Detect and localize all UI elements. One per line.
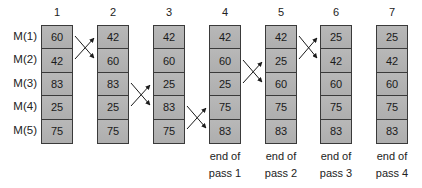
swap-arrow-x-icon (131, 83, 150, 106)
swap-arrow-x-icon (75, 36, 94, 59)
swap-arrow-x-icon (299, 36, 317, 59)
swap-arrow-x-icon (187, 106, 206, 129)
swap-arrows (0, 0, 422, 188)
bubble-sort-diagram: M(1) M(2) M(3) M(4) M(5) 1 2 3 4 5 6 7 6… (0, 0, 422, 188)
swap-arrow-x-icon (243, 60, 262, 83)
